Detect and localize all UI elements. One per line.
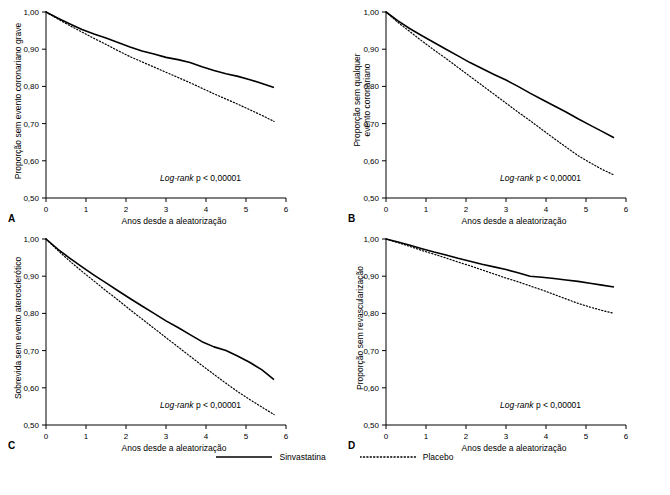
series-line-sinvastatina <box>386 12 614 138</box>
x-tick-label: 6 <box>624 432 629 441</box>
y-tick-label: 0,80 <box>363 309 379 318</box>
panel-b-x-axis-label: Anos desde a aleatorização <box>394 216 634 226</box>
panel-b-y-axis-label: Proporção sem qualquer evento coronarian… <box>352 10 372 190</box>
panel-c-logrank-annotation: Log-rank p < 0,00001 <box>160 400 241 410</box>
y-tick-label: 0,70 <box>23 347 39 356</box>
y-tick-label: 1,00 <box>23 8 39 17</box>
y-tick-label: 0,60 <box>23 157 39 166</box>
y-tick-label: 1,00 <box>363 235 379 244</box>
chart-legend: Sinvastatina Placebo <box>0 452 670 462</box>
panel-a-logrank-annotation: Log-rank p < 0,00001 <box>160 173 241 183</box>
y-tick-label: 0,80 <box>23 309 39 318</box>
panel-d-logrank-rest: p < 0,00001 <box>534 400 582 410</box>
panel-a-logrank-prefix: Log-rank <box>160 173 194 183</box>
series-line-sinvastatina <box>46 12 274 88</box>
x-tick-label: 2 <box>464 205 469 214</box>
x-tick-label: 3 <box>504 205 509 214</box>
y-tick-label: 0,50 <box>23 194 39 203</box>
y-tick-label: 0,90 <box>23 272 39 281</box>
x-tick-label: 2 <box>124 205 129 214</box>
x-tick-label: 3 <box>164 432 169 441</box>
legend-label-placebo: Placebo <box>423 452 454 462</box>
y-tick-label: 0,60 <box>23 384 39 393</box>
y-tick-label: 0,50 <box>23 421 39 430</box>
y-tick-label: 1,00 <box>23 235 39 244</box>
panel-c-svg: 0,500,600,700,800,901,000123456 <box>0 231 300 441</box>
x-tick-label: 5 <box>584 432 589 441</box>
y-tick-label: 0,50 <box>363 194 379 203</box>
panel-b-letter: B <box>348 213 355 224</box>
panel-d-logrank-prefix: Log-rank <box>500 400 534 410</box>
panel-c-logrank-prefix: Log-rank <box>160 400 194 410</box>
panel-b-plot: 0,500,600,700,800,901,000123456 <box>340 4 640 214</box>
panel-a: 0,500,600,700,800,901,000123456 Proporçã… <box>0 4 300 214</box>
x-tick-label: 6 <box>624 205 629 214</box>
legend-solid-line-icon <box>216 453 272 461</box>
panel-b-logrank-rest: p < 0,00001 <box>534 173 582 183</box>
y-tick-label: 0,90 <box>23 45 39 54</box>
x-tick-label: 5 <box>584 205 589 214</box>
series-line-placebo <box>386 12 614 175</box>
panel-c-logrank-rest: p < 0,00001 <box>194 400 242 410</box>
x-tick-label: 6 <box>284 432 289 441</box>
panel-c-letter: C <box>8 440 15 451</box>
series-line-placebo <box>386 239 614 313</box>
panel-b: 0,500,600,700,800,901,000123456 Proporçã… <box>340 4 640 214</box>
x-tick-label: 4 <box>544 205 549 214</box>
panel-a-svg: 0,500,600,700,800,901,000123456 <box>0 4 300 214</box>
x-tick-label: 2 <box>464 432 469 441</box>
panel-c: 0,500,600,700,800,901,000123456 Sobrevid… <box>0 231 300 441</box>
x-tick-label: 5 <box>244 432 249 441</box>
panel-b-y-axis-label-line1: Proporção sem qualquer <box>352 10 362 190</box>
x-tick-label: 3 <box>164 205 169 214</box>
x-tick-label: 1 <box>424 432 429 441</box>
panel-d-plot: 0,500,600,700,800,901,000123456 <box>340 231 640 441</box>
x-tick-label: 5 <box>244 205 249 214</box>
x-tick-label: 4 <box>204 205 209 214</box>
panel-d-letter: D <box>348 440 355 451</box>
y-tick-label: 0,60 <box>363 384 379 393</box>
y-tick-label: 0,90 <box>363 272 379 281</box>
legend-item-sinvastatina: Sinvastatina <box>216 452 325 462</box>
x-tick-label: 1 <box>84 205 89 214</box>
x-tick-label: 6 <box>284 205 289 214</box>
x-tick-label: 4 <box>544 432 549 441</box>
legend-item-placebo: Placebo <box>360 452 454 462</box>
panel-d: 0,500,600,700,800,901,000123456 Proporçã… <box>340 231 640 441</box>
legend-label-sinvastatina: Sinvastatina <box>279 452 325 462</box>
panel-d-y-axis-label: Proporção sem revascularização <box>355 238 365 418</box>
x-tick-label: 4 <box>204 432 209 441</box>
y-tick-label: 0,70 <box>23 120 39 129</box>
panel-a-logrank-rest: p < 0,00001 <box>194 173 242 183</box>
panel-d-svg: 0,500,600,700,800,901,000123456 <box>340 231 640 441</box>
panel-b-y-axis-label-line2: evento coronariano <box>362 10 372 190</box>
x-tick-label: 2 <box>124 432 129 441</box>
panel-a-y-axis-label: Proporção sem evento coronariano grave <box>13 5 23 197</box>
x-tick-label: 0 <box>44 205 49 214</box>
legend-dotted-line-icon <box>360 453 416 461</box>
panel-a-plot: 0,500,600,700,800,901,000123456 <box>0 4 300 214</box>
panel-c-plot: 0,500,600,700,800,901,000123456 <box>0 231 300 441</box>
x-tick-label: 0 <box>44 432 49 441</box>
x-tick-label: 1 <box>424 205 429 214</box>
panel-d-logrank-annotation: Log-rank p < 0,00001 <box>500 400 581 410</box>
series-line-sinvastatina <box>46 239 274 380</box>
x-tick-label: 1 <box>84 432 89 441</box>
panel-b-svg: 0,500,600,700,800,901,000123456 <box>340 4 640 214</box>
y-tick-label: 0,80 <box>23 82 39 91</box>
x-tick-label: 0 <box>384 205 389 214</box>
x-tick-label: 0 <box>384 432 389 441</box>
y-tick-label: 0,70 <box>363 347 379 356</box>
panel-a-x-axis-label: Anos desde a aleatorização <box>54 216 294 226</box>
series-line-sinvastatina <box>386 239 614 287</box>
panel-b-logrank-annotation: Log-rank p < 0,00001 <box>500 173 581 183</box>
y-tick-label: 0,50 <box>363 421 379 430</box>
panel-b-logrank-prefix: Log-rank <box>500 173 534 183</box>
panel-c-y-axis-label: Sobrevida sem evento aterosclerótico <box>13 232 23 424</box>
x-tick-label: 3 <box>504 432 509 441</box>
panel-a-letter: A <box>8 213 15 224</box>
